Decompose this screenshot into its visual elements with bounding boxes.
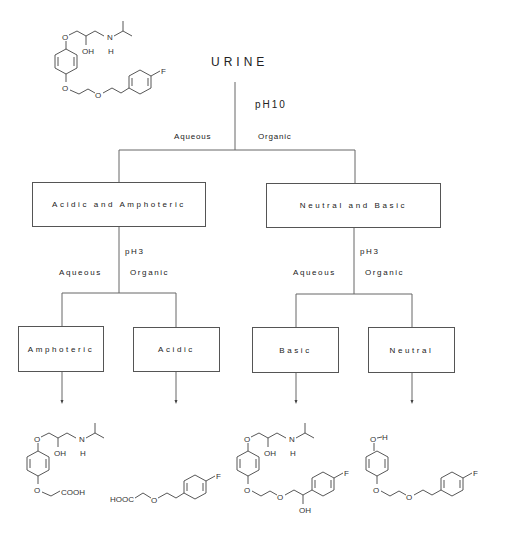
organic-phase-label: Organic <box>258 132 292 141</box>
basic-box: Basic <box>252 327 339 373</box>
svg-text:N: N <box>79 435 85 444</box>
left-ph3-label: pH3 <box>125 247 144 256</box>
diagram-title: URINE <box>211 55 268 69</box>
extraction-scheme-diagram: URINE pH10 Aqueous Organic Acidic and Am… <box>0 0 506 540</box>
amphoteric-label: Amphoteric <box>28 345 94 354</box>
svg-text:COOH: COOH <box>61 488 85 497</box>
svg-text:OH: OH <box>54 449 66 458</box>
parent-drug-structure: O OH N H O O F <box>0 0 200 130</box>
neutral-basic-box: Neutral and Basic <box>266 183 441 228</box>
svg-text:O: O <box>95 91 101 100</box>
ph10-condition-label: pH10 <box>255 99 287 110</box>
svg-text:O: O <box>151 496 157 505</box>
svg-text:N: N <box>289 435 295 444</box>
svg-text:F: F <box>216 472 221 481</box>
svg-text:N: N <box>107 33 113 42</box>
neutral-label: Neutral <box>390 346 434 355</box>
neutral-metabolite-structure: O H O O F <box>365 410 505 520</box>
arrow-head-icon <box>175 400 178 404</box>
svg-text:O: O <box>277 493 283 502</box>
basic-label: Basic <box>279 346 312 355</box>
svg-text:OH: OH <box>82 47 94 56</box>
svg-text:HOOC: HOOC <box>110 495 134 504</box>
acidic-box: Acidic <box>133 327 220 372</box>
neutral-box: Neutral <box>368 327 455 373</box>
svg-text:OH: OH <box>264 449 276 458</box>
svg-text:O: O <box>406 493 412 502</box>
svg-text:F: F <box>473 469 478 478</box>
amphoteric-box: Amphoteric <box>18 326 104 372</box>
left-organic-label: Organic <box>130 268 169 277</box>
right-organic-label: Organic <box>365 268 404 277</box>
svg-text:O: O <box>34 435 40 444</box>
arrow-head-icon <box>295 400 298 404</box>
svg-text:O: O <box>62 33 68 42</box>
aqueous-phase-label: Aqueous <box>174 132 211 141</box>
svg-text:O: O <box>34 486 40 495</box>
arrow-head-icon <box>61 400 64 404</box>
acidic-amphoteric-box: Acidic and Amphoteric <box>32 182 206 227</box>
acidic-amphoteric-label: Acidic and Amphoteric <box>52 200 186 209</box>
neutral-basic-label: Neutral and Basic <box>300 201 407 210</box>
left-aqueous-label: Aqueous <box>59 268 102 277</box>
svg-text:F: F <box>344 469 349 478</box>
svg-text:OH: OH <box>299 506 311 515</box>
svg-text:O: O <box>370 435 376 444</box>
right-aqueous-label: Aqueous <box>293 268 336 277</box>
acidic-label: Acidic <box>158 345 195 354</box>
arrow-head-icon <box>411 400 414 404</box>
svg-text:H: H <box>290 449 296 458</box>
basic-metabolite-structure: O OH N H O O OH F <box>230 410 370 530</box>
svg-text:F: F <box>161 67 166 76</box>
svg-text:O: O <box>244 435 250 444</box>
svg-text:O: O <box>62 84 68 93</box>
acidic-metabolite-structure: HOOC O F <box>105 440 225 540</box>
svg-text:O: O <box>244 486 250 495</box>
right-ph3-label: pH3 <box>360 247 379 256</box>
svg-text:H: H <box>108 47 114 56</box>
svg-text:O: O <box>373 486 379 495</box>
svg-text:H: H <box>382 433 388 442</box>
svg-text:H: H <box>80 449 86 458</box>
